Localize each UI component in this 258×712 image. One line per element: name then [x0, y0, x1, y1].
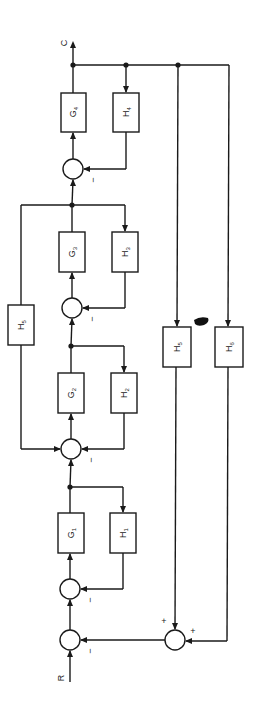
summing-junction-2: [61, 439, 81, 459]
sign-sum2: −: [86, 457, 96, 462]
ink-blot: [194, 317, 209, 325]
svg-text:R: R: [56, 674, 66, 681]
summing-junction-1: [60, 579, 80, 599]
output-arrow: [70, 41, 76, 48]
output-label: C: [59, 39, 69, 46]
svg-text:C: C: [59, 39, 69, 46]
summing-junction-outer: [165, 630, 185, 650]
input-label: R: [56, 674, 66, 681]
summing-junction-0: [60, 630, 80, 650]
sign-outer-2: +: [190, 626, 195, 636]
sign-sum1: −: [85, 597, 95, 602]
summing-junction-4: [63, 159, 83, 179]
sign-sum0: −: [85, 648, 95, 653]
sign-outer-1: +: [161, 616, 166, 626]
sign-sum3: −: [87, 316, 97, 321]
summing-junction-3: [62, 298, 82, 318]
sign-sum4: −: [88, 177, 98, 182]
block-diagram: G1 G2 G3 G4 H1 H2 H3 H4 H5 H5 H6 R C − −…: [0, 0, 258, 712]
